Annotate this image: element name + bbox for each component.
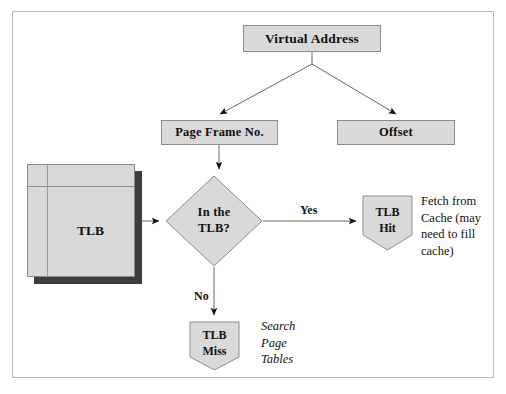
node-virtual-address: Virtual Address <box>243 25 381 52</box>
node-tlb-miss-label-line1: TLB <box>202 328 226 344</box>
node-decision-in-the-tlb: In the TLB? <box>165 175 263 267</box>
node-tlb-miss: TLB Miss <box>189 321 240 371</box>
edge-label-yes: Yes <box>300 203 317 218</box>
node-offset-label: Offset <box>379 125 413 140</box>
node-tlb-miss-label: TLB Miss <box>189 328 240 359</box>
node-page-frame-no-label: Page Frame No. <box>175 125 264 140</box>
node-offset: Offset <box>337 120 455 145</box>
node-tlb-hit-label-line1: TLB <box>375 205 399 221</box>
node-tlb-miss-label-line2: Miss <box>203 344 227 360</box>
node-decision-label: In the TLB? <box>165 175 263 267</box>
node-tlb-label: TLB <box>47 186 134 276</box>
annotation-search-page-tables: Search Page Tables <box>261 318 321 368</box>
node-tlb-table: TLB <box>27 164 135 277</box>
node-tlb: TLB <box>27 164 135 277</box>
node-page-frame-no: Page Frame No. <box>161 120 278 145</box>
diagram-canvas: Virtual Address Page Frame No. Offset TL… <box>0 0 506 394</box>
node-decision-label-line1: In the <box>198 205 231 221</box>
node-decision-label-line2: TLB? <box>198 221 230 237</box>
node-tlb-hit: TLB Hit <box>362 195 413 251</box>
node-virtual-address-label: Virtual Address <box>265 31 359 47</box>
annotation-fetch-from-cache: Fetch from Cache (may need to fill cache… <box>421 193 495 259</box>
edge-label-no: No <box>194 289 209 304</box>
node-tlb-hit-label: TLB Hit <box>362 205 413 236</box>
node-tlb-hit-label-line2: Hit <box>379 221 396 237</box>
